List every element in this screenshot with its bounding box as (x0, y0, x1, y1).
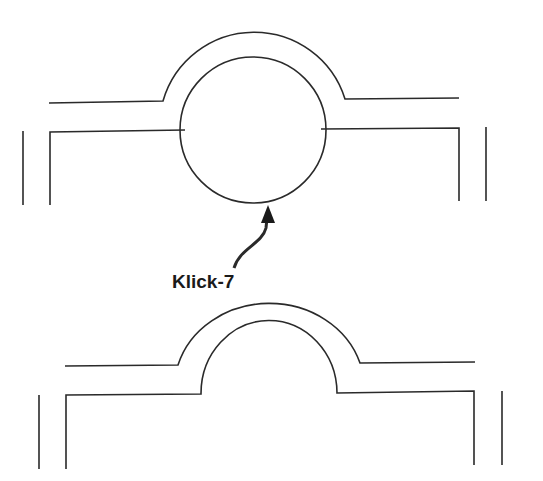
bottom-outer-profile (65, 303, 475, 366)
top-inner-profile-left (50, 130, 185, 205)
circular-element (180, 57, 326, 203)
bottom-inner-profile (66, 321, 474, 469)
top-outer-profile (49, 32, 459, 103)
arrow-head (261, 205, 275, 223)
top-inner-profile-right (321, 128, 459, 201)
arrow-shaft (234, 218, 267, 268)
bottom-figure (39, 303, 502, 469)
label-klick-7: Klick-7 (172, 271, 234, 292)
arrow (234, 205, 275, 268)
diagram-canvas: Klick-7 (0, 0, 543, 481)
top-figure (23, 32, 486, 205)
